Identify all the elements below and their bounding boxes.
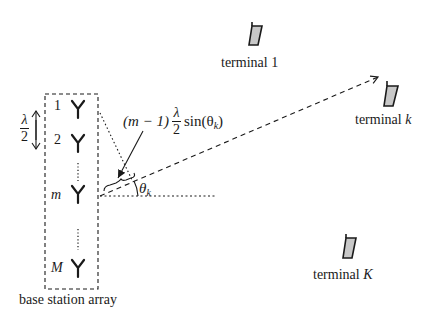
terminal-K-label: terminal K (313, 268, 373, 282)
antenna-label-M: M (51, 261, 63, 275)
antenna-label-2: 2 (54, 133, 61, 147)
expr-suffix: ) (218, 113, 223, 130)
terminal-1-label: terminal 1 (221, 56, 278, 70)
antenna-icon (72, 101, 84, 118)
phone-icon (343, 234, 356, 258)
expr-frac-den: 2 (173, 123, 180, 137)
expr-fraction: λ 2 (172, 106, 181, 137)
spacing-label: λ 2 (20, 113, 29, 144)
antenna-icon (72, 135, 84, 152)
spacing-denominator: 2 (21, 130, 28, 144)
antenna-icon (72, 186, 84, 203)
path-difference-expression: (m − 1) λ 2 sin(θ k ) (123, 106, 223, 137)
terminal-label-base: terminal (355, 112, 405, 127)
antenna-icon (72, 260, 84, 277)
phone-icon (249, 22, 262, 45)
angle-sub: k (146, 187, 150, 198)
angle-label: θ k (139, 180, 151, 197)
terminal-label-index: k (405, 112, 411, 127)
expr-sub: k (214, 120, 218, 131)
spacing-arrow (32, 111, 40, 149)
terminal-label-base: terminal (313, 267, 363, 282)
terminal-label-base: terminal (221, 55, 271, 70)
terminal-label-index: K (363, 267, 372, 282)
phone-icon (384, 81, 398, 106)
array-caption: base station array (19, 293, 117, 307)
terminal-label-index: 1 (271, 55, 278, 70)
angle-symbol: θ (139, 180, 146, 197)
expr-prefix: (m − 1) (123, 113, 169, 130)
antenna-label-m: m (51, 188, 61, 202)
expr-func: sin(θ (184, 113, 214, 130)
antenna-label-1: 1 (54, 99, 61, 113)
annotation-arrow (118, 131, 143, 178)
spacing-numerator: λ (20, 113, 28, 127)
angle-arc (134, 181, 138, 196)
expr-frac-num: λ (173, 106, 179, 120)
terminal-k-label: terminal k (355, 113, 411, 127)
